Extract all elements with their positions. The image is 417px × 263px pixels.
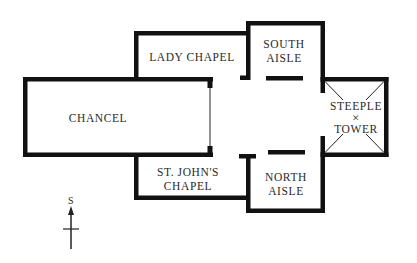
north-aisle-screen (268, 150, 305, 155)
chancel-label: CHANCEL (69, 112, 128, 124)
st-johns-chapel-label-line2: CHAPEL (164, 180, 212, 192)
lady-chapel-label: LADY CHAPEL (149, 51, 235, 63)
south-aisle-screen (266, 76, 303, 81)
south-aisle-label-line1: SOUTH (263, 38, 304, 50)
compass-label: S (68, 195, 74, 206)
north-aisle-label-line2: AISLE (268, 185, 304, 197)
church-floor-plan: CHANCEL LADY CHAPEL SOUTH AISLE STEEPLE … (0, 0, 417, 263)
st-johns-chapel-label-line1: ST. JOHN'S (157, 166, 219, 178)
steeple-tower-label-line2: TOWER (334, 123, 378, 135)
compass-arrow-icon (63, 206, 79, 249)
north-aisle-label-line1: NORTH (265, 171, 307, 183)
south-aisle-label-line2: AISLE (266, 52, 302, 64)
